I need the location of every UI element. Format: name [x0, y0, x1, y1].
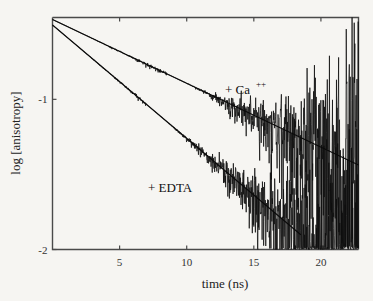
y-tick-label: -1	[38, 93, 47, 105]
x-axis-title: time (ns)	[202, 276, 249, 291]
annotation-label-edta: + EDTA	[148, 180, 193, 195]
anisotropy-decay-figure: 5101520 -1-2 + Ca ++ + EDTA time (ns) lo…	[0, 0, 373, 301]
annotation-label-ca: + Ca	[225, 82, 250, 97]
x-tick-label: 20	[315, 256, 327, 268]
x-tick-label: 5	[117, 256, 123, 268]
annotation-superscript-ca: ++	[256, 79, 266, 89]
x-tick-label: 15	[248, 256, 260, 268]
series-annotation-edta: + EDTA	[148, 180, 193, 195]
chart-canvas: 5101520 -1-2 + Ca ++ + EDTA time (ns) lo…	[0, 0, 373, 301]
x-tick-label: 10	[181, 256, 193, 268]
y-axis-title: log [anisotropy]	[8, 91, 23, 174]
y-tick-label: -2	[38, 244, 47, 256]
